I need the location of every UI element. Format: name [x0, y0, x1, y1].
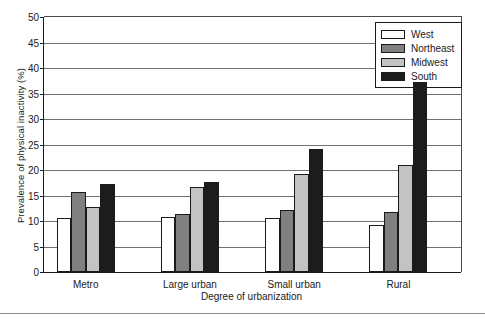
y-tick-label: 5	[33, 241, 39, 252]
bar	[280, 210, 295, 272]
y-tick-mark	[40, 221, 44, 222]
y-tick-mark	[40, 68, 44, 69]
bar	[369, 225, 384, 272]
x-axis-title: Degree of urbanization	[43, 291, 460, 302]
legend-swatch-icon	[381, 44, 405, 53]
bar	[384, 212, 399, 272]
y-tick-mark	[40, 43, 44, 44]
y-tick-label: 0	[33, 267, 39, 278]
y-tick-mark	[40, 145, 44, 146]
legend-label: Midwest	[411, 57, 448, 68]
x-tick-label: Metro	[73, 279, 99, 290]
bar	[190, 187, 205, 272]
footer-divider	[0, 313, 485, 314]
legend-swatch-icon	[381, 30, 405, 39]
y-axis-title-text: Prevalence of physical inactivity (%)	[16, 67, 27, 222]
legend-swatch-icon	[381, 58, 405, 67]
legend-label: West	[411, 29, 434, 40]
legend-item: Midwest	[381, 55, 454, 69]
bar	[413, 82, 428, 272]
x-tick-label: Small urban	[268, 279, 321, 290]
y-tick-mark	[40, 170, 44, 171]
bar	[175, 214, 190, 272]
y-tick-label: 15	[28, 190, 39, 201]
y-tick-mark	[40, 272, 44, 273]
y-tick-label: 40	[28, 63, 39, 74]
bar	[309, 149, 324, 272]
y-tick-mark	[40, 196, 44, 197]
legend-label: Northeast	[411, 43, 454, 54]
bar-group	[161, 17, 219, 272]
y-tick-mark	[40, 247, 44, 248]
y-tick-label: 50	[28, 12, 39, 23]
bar-group	[57, 17, 115, 272]
x-tick-label: Rural	[386, 279, 410, 290]
y-tick-mark	[40, 94, 44, 95]
bar	[398, 165, 413, 272]
bar	[86, 207, 101, 272]
legend-item: Northeast	[381, 41, 454, 55]
bar	[57, 218, 72, 272]
legend-swatch-icon	[381, 72, 405, 81]
y-tick-label: 10	[28, 216, 39, 227]
legend-item: South	[381, 69, 454, 83]
legend-label: South	[411, 71, 437, 82]
y-tick-label: 25	[28, 139, 39, 150]
bar	[265, 218, 280, 272]
bar	[71, 192, 86, 272]
legend-item: West	[381, 27, 454, 41]
bar	[204, 182, 219, 272]
bar	[294, 174, 309, 272]
y-tick-label: 35	[28, 88, 39, 99]
y-tick-mark	[40, 119, 44, 120]
y-tick-mark	[40, 17, 44, 18]
y-tick-label: 45	[28, 37, 39, 48]
bar-group	[265, 17, 323, 272]
chart-legend: WestNortheastMidwestSouth	[375, 22, 462, 88]
bar	[161, 217, 176, 272]
y-tick-label: 20	[28, 165, 39, 176]
chart-figure: Prevalence of physical inactivity (%) 05…	[0, 0, 485, 325]
bar	[100, 184, 115, 272]
y-tick-label: 30	[28, 114, 39, 125]
x-tick-label: Large urban	[163, 279, 217, 290]
